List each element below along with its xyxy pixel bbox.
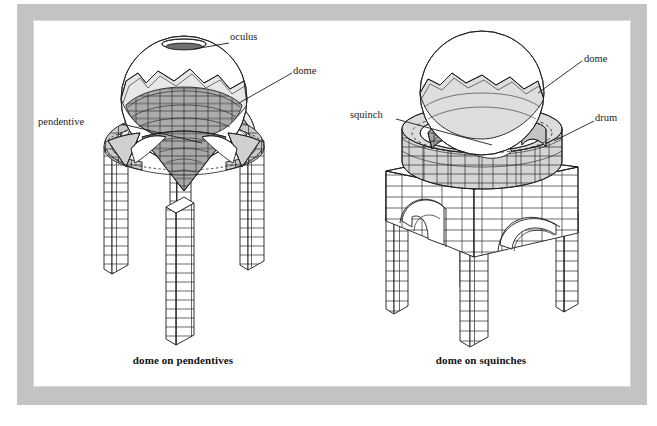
caption-dome-on-squinches: dome on squinches (332, 354, 630, 366)
panel-dome-on-pendentives: oculus dome pendentive dome on pendentiv… (34, 21, 332, 386)
caption-dome-on-pendentives: dome on pendentives (34, 354, 332, 366)
pendentive-drawing (34, 21, 332, 351)
label-dome: dome (293, 65, 316, 76)
frame-left-band (17, 4, 34, 405)
label-dome: dome (584, 53, 607, 64)
frame-top-band (17, 4, 647, 21)
panel-dome-on-squinches: dome squinch drum dome on squinches (332, 21, 630, 386)
label-pendentive: pendentive (38, 116, 84, 127)
label-oculus: oculus (230, 31, 257, 42)
squinch-drawing (332, 21, 630, 351)
label-squinch: squinch (350, 109, 383, 120)
frame-right-band (630, 4, 647, 405)
frame-bottom-band (17, 386, 647, 405)
figure-plate: oculus dome pendentive dome on pendentiv… (34, 21, 630, 386)
label-drum: drum (595, 112, 617, 123)
figure-page: oculus dome pendentive dome on pendentiv… (0, 0, 657, 426)
